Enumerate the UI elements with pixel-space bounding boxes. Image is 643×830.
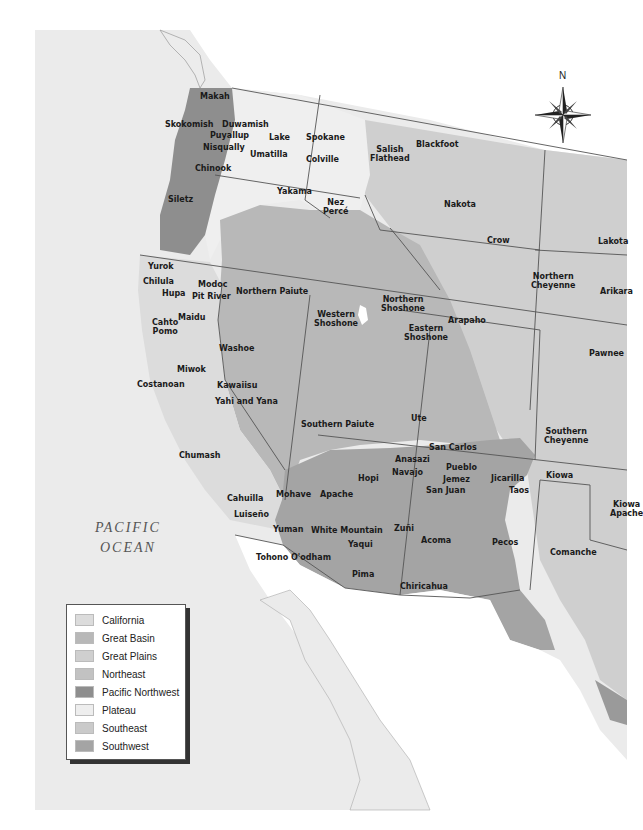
legend-swatch	[75, 632, 94, 644]
tribe-label: Makah	[200, 92, 230, 101]
tribe-label: Hupa	[162, 289, 186, 298]
legend-item: Southeast	[67, 719, 185, 737]
legend-swatch	[75, 704, 94, 716]
legend-item: Southwest	[67, 737, 185, 755]
tribe-label: San Carlos	[429, 443, 477, 452]
tribe-label: NezPercé	[323, 198, 348, 216]
tribe-label: Chilula	[143, 277, 174, 286]
tribe-label: San Juan	[426, 486, 465, 495]
tribe-label: Yaqui	[348, 540, 373, 549]
tribe-label: Umatilla	[250, 150, 288, 159]
tribe-label: NorthernShoshone	[381, 295, 425, 313]
tribe-label: Zuñi	[394, 524, 414, 533]
tribe-label: Northern Paiute	[236, 287, 308, 296]
tribe-label: SalishFlathead	[370, 145, 410, 163]
tribe-label: Washoe	[219, 344, 254, 353]
tribe-label: Spokane	[306, 133, 345, 142]
tribe-label: Cahuilla	[227, 494, 263, 503]
tribe-label: Mohave	[276, 490, 311, 499]
legend-swatch	[75, 650, 94, 662]
legend-swatch	[75, 722, 94, 734]
tribe-label: Colville	[306, 155, 339, 164]
tribe-label: Arapaho	[448, 316, 486, 325]
tribe-label: Costanoan	[137, 380, 185, 389]
tribe-label: Chumash	[179, 451, 220, 460]
tribe-label: Kiowa	[546, 471, 573, 480]
legend-item: Northeast	[67, 665, 185, 683]
legend-item: California	[67, 611, 185, 629]
tribe-label: Arikara	[600, 287, 633, 296]
tribe-label: Tohono O'odham	[256, 553, 331, 562]
tribe-label: Yahi and Yana	[215, 397, 278, 406]
tribe-label: Crow	[487, 236, 510, 245]
tribe-label: Ute	[411, 414, 427, 423]
tribe-label: WesternShoshone	[314, 310, 358, 328]
tribe-label: KiowaApache	[610, 500, 643, 518]
tribe-label: Taos	[509, 486, 529, 495]
tribe-label: Blackfoot	[416, 140, 459, 149]
ocean-label: PACIFIC OCEAN	[95, 518, 161, 558]
legend-label: Northeast	[102, 669, 145, 680]
tribe-label: CahtoPomo	[152, 318, 178, 336]
tribe-label: Luiseño	[234, 510, 269, 519]
tribe-label: Lake	[269, 133, 290, 142]
legend-label: Great Plains	[102, 651, 157, 662]
tribe-label: Pecos	[492, 538, 518, 547]
tribe-label: Navajo	[392, 468, 423, 477]
legend-label: Plateau	[102, 705, 136, 716]
legend-label: Southeast	[102, 723, 147, 734]
tribe-label: Pima	[352, 570, 374, 579]
legend-label: California	[102, 615, 144, 626]
legend-label: Pacific Northwest	[102, 687, 179, 698]
tribe-label: Anasazi	[395, 455, 430, 464]
legend-item: Pacific Northwest	[67, 683, 185, 701]
tribe-label: Modoc	[198, 280, 227, 289]
legend: California Great Basin Great Plains Nort…	[66, 604, 186, 760]
tribe-label: Chinook	[195, 164, 231, 173]
tribe-label: Pit River	[192, 292, 231, 301]
tribe-label: Apache	[320, 490, 353, 499]
tribe-label: Nakota	[444, 200, 476, 209]
tribe-label: NorthernCheyenne	[531, 272, 575, 290]
tribe-label: Comanche	[550, 548, 597, 557]
legend-item: Great Plains	[67, 647, 185, 665]
tribe-label: Yuman	[273, 525, 303, 534]
legend-swatch	[75, 740, 94, 752]
legend-swatch	[75, 668, 94, 680]
tribe-label: SouthernCheyenne	[544, 427, 588, 445]
tribe-label: Pueblo	[446, 463, 477, 472]
tribe-label: Miwok	[177, 365, 206, 374]
tribe-label: Southern Paiute	[301, 420, 374, 429]
legend-label: Southwest	[102, 741, 149, 752]
tribe-label: Duwamish	[222, 120, 269, 129]
tribe-label: Skokomish	[165, 120, 214, 129]
tribe-label: Siletz	[168, 195, 193, 204]
tribe-label: White Mountain	[311, 526, 383, 535]
tribe-label: Nisqually	[203, 143, 245, 152]
tribe-label: Pawnee	[589, 349, 624, 358]
tribe-label: Yurok	[148, 262, 174, 271]
ocean-label-line-2: OCEAN	[95, 538, 161, 558]
tribe-label: Maidu	[178, 313, 206, 322]
tribe-label: Yakama	[277, 187, 312, 196]
tribe-label: Hopi	[358, 474, 379, 483]
ocean-label-line-1: PACIFIC	[95, 518, 161, 538]
legend-swatch	[75, 686, 94, 698]
tribe-label: Puyallup	[210, 131, 249, 140]
tribe-label: Acoma	[421, 536, 451, 545]
tribe-label: Lakota	[598, 237, 628, 246]
tribe-label: Jemez	[443, 475, 470, 484]
legend-item: Plateau	[67, 701, 185, 719]
legend-swatch	[75, 614, 94, 626]
legend-item: Great Basin	[67, 629, 185, 647]
tribe-label: Kawaiisu	[217, 381, 257, 390]
compass-north-label: N	[559, 70, 566, 81]
legend-label: Great Basin	[102, 633, 155, 644]
tribe-label: Chiricahua	[400, 582, 448, 591]
tribe-label: EasternShoshone	[404, 324, 448, 342]
tribe-label: Jicarilla	[491, 474, 524, 483]
